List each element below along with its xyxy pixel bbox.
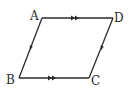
vertex-label-a: A (30, 10, 39, 22)
vertex-label-b: B (6, 74, 15, 86)
single-arrow-icon-ab (30, 45, 33, 50)
single-arrow-icon-dc (101, 45, 104, 50)
double-arrow-icon-ad (71, 16, 79, 21)
vertex-label-d: D (114, 12, 124, 24)
parallelogram-svg (0, 0, 132, 96)
vertex-label-c: C (91, 75, 100, 87)
parallelogram-diagram: A D B C (0, 0, 132, 96)
double-arrow-icon-bc (48, 76, 56, 81)
